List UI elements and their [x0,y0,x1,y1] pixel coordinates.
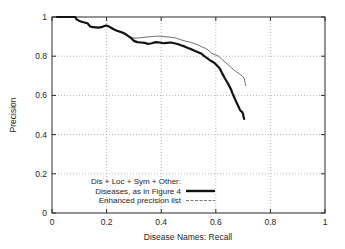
x-tick-label: 0 [50,217,55,227]
x-tick-label: 1 [323,217,328,227]
y-tick-label: 0 [42,208,47,218]
x-tick-label: 0.4 [155,217,167,227]
y-tick-label: 0.4 [35,130,47,140]
y-tick-label: 1 [42,12,47,22]
legend-title: Dis + Loc + Sym + Other: [91,177,181,186]
y-tick-label: 0.8 [35,51,47,61]
y-tick-label: 0.2 [35,169,47,179]
y-tick-label: 0.6 [35,90,47,100]
x-axis-tick-labels: 00.20.40.60.81 [50,217,328,227]
x-tick-label: 0.2 [101,217,113,227]
y-axis-tick-labels: 00.20.40.60.81 [35,12,47,218]
precision-recall-figure: 00.20.40.60.81 00.20.40.60.81 Disease Na… [0,0,345,249]
x-axis-title: Disease Names: Recall [144,232,232,242]
legend-label-enhanced: Enhanced precision list [99,196,182,205]
x-tick-label: 0.8 [264,217,276,227]
x-tick-label: 0.6 [210,217,222,227]
legend-label-diseases: Diseases, as in Figure 4 [95,187,181,196]
chart-canvas: 00.20.40.60.81 00.20.40.60.81 Disease Na… [0,0,345,249]
y-axis-title: Precision [8,97,18,132]
